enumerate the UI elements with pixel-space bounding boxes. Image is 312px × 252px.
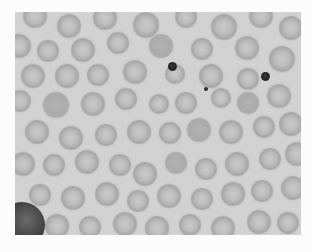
red-blood-cell: [249, 12, 273, 28]
red-blood-cell: [175, 12, 197, 28]
red-blood-cell: [267, 84, 291, 108]
red-blood-cell: [179, 214, 201, 235]
red-blood-cell: [15, 152, 35, 176]
red-blood-cell: [93, 12, 117, 30]
red-blood-cell: [251, 180, 273, 202]
dark-inclusion-dot: [261, 72, 270, 81]
red-blood-cell: [37, 40, 59, 62]
red-blood-cell: [157, 184, 181, 208]
red-blood-cell: [219, 120, 243, 144]
red-blood-cell: [165, 152, 187, 174]
red-blood-cell: [253, 116, 275, 138]
red-blood-cell: [149, 34, 173, 58]
red-blood-cell: [211, 216, 235, 235]
red-blood-cell: [25, 120, 49, 144]
red-blood-cell: [109, 154, 131, 176]
dark-inclusion-dot: [168, 62, 177, 71]
red-blood-cell: [277, 212, 299, 234]
red-blood-cell: [195, 158, 217, 180]
red-blood-cell: [79, 216, 101, 235]
red-blood-cell: [259, 148, 281, 170]
red-blood-cell: [145, 216, 169, 235]
red-blood-cell: [95, 182, 119, 206]
red-blood-cell: [285, 142, 301, 166]
red-blood-cell: [21, 64, 45, 88]
red-blood-cell: [59, 126, 83, 150]
red-blood-cell: [81, 92, 105, 116]
red-blood-cell: [107, 32, 129, 54]
red-blood-cell: [75, 150, 99, 174]
red-blood-cell: [57, 14, 81, 38]
red-blood-cell: [43, 154, 65, 176]
red-blood-cell: [71, 38, 95, 62]
red-blood-cell: [175, 92, 197, 114]
figure: [0, 0, 312, 252]
red-blood-cell: [237, 68, 259, 90]
red-blood-cell: [187, 118, 211, 142]
red-blood-cell: [211, 14, 237, 40]
red-blood-cell: [211, 88, 231, 108]
red-blood-cell: [113, 212, 137, 235]
red-blood-cell: [237, 92, 259, 114]
red-blood-cell: [279, 16, 301, 40]
red-blood-cell: [191, 188, 213, 210]
red-blood-cell: [221, 182, 245, 206]
red-blood-cell: [199, 64, 223, 88]
red-blood-cell: [115, 88, 137, 110]
red-blood-cell: [15, 34, 31, 58]
red-blood-cell: [225, 152, 249, 176]
red-blood-cell: [159, 122, 181, 144]
red-blood-cell: [87, 64, 109, 86]
red-blood-cell: [61, 186, 85, 210]
red-blood-cell: [95, 124, 117, 146]
red-blood-cell: [149, 94, 169, 114]
dark-stained-cell: [15, 202, 45, 235]
blood-smear-micrograph: [15, 12, 301, 235]
figure-caption: [0, 241, 312, 252]
red-blood-cell: [45, 214, 69, 235]
red-blood-cell: [133, 162, 157, 186]
dark-inclusion-dot: [204, 87, 208, 91]
red-blood-cell: [279, 112, 301, 136]
red-blood-cell: [191, 38, 213, 60]
red-blood-cell: [127, 120, 151, 144]
red-blood-cell: [29, 184, 51, 206]
red-blood-cell: [23, 12, 47, 28]
red-blood-cell: [247, 210, 271, 234]
red-blood-cell: [127, 190, 149, 212]
red-blood-cell: [123, 60, 147, 84]
red-blood-cell: [281, 176, 301, 200]
red-blood-cell: [15, 90, 31, 112]
red-blood-cell: [43, 92, 69, 118]
red-blood-cell: [269, 46, 295, 72]
red-blood-cell: [235, 36, 259, 60]
red-blood-cell: [55, 64, 79, 88]
